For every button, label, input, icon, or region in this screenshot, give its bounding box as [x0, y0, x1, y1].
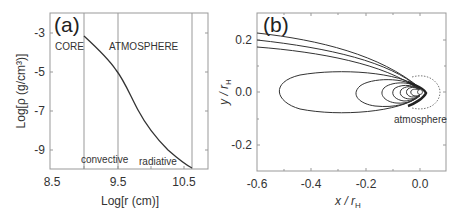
b-x-axis-label-sub: H [355, 201, 361, 210]
a-xtick-label: 8.5 [44, 175, 61, 189]
panel-b-label: (b) [263, 13, 289, 36]
a-xtick-label: 9.5 [110, 175, 127, 189]
panel-b: 0.2 0.0 -0.2 -0.6 -0.4 -0.2 0.0 x / rH y… [217, 13, 447, 210]
a-ytick-label: -3 [34, 26, 45, 40]
a-ytick-label: -9 [34, 143, 45, 157]
b-xtick-label: -0.4 [301, 177, 322, 191]
panel-a-region-lines [84, 13, 192, 169]
a-ytick-label: -5 [34, 65, 45, 79]
b-ytick-label: 0.2 [235, 33, 252, 47]
b-x-axis-label-main: x / r [334, 194, 356, 208]
planet-marker [418, 90, 423, 95]
a-xtick-label: 10.5 [172, 175, 196, 189]
figure: -3 -5 -7 -9 8.5 9.5 10.5 Log[r (cm)] Log… [0, 0, 461, 216]
convective-annotation: convective [81, 154, 129, 165]
a-x-axis-label: Log[r (cm)] [101, 194, 159, 208]
b-x-axis-label: x / rH [334, 194, 361, 210]
a-ytick-label: -7 [34, 104, 45, 118]
open-streamline-middle [257, 40, 419, 88]
b-ytick-label: -0.2 [231, 138, 252, 152]
b-xtick-label: -0.2 [356, 177, 377, 191]
b-y-axis-label-main: y / r [217, 84, 231, 106]
panel-a: -3 -5 -7 -9 8.5 9.5 10.5 Log[r (cm)] Log… [14, 13, 208, 208]
b-xtick-label: -0.6 [247, 177, 268, 191]
streamlines [257, 33, 420, 113]
atmosphere-annotation-b: atmosphere [394, 114, 447, 125]
a-y-axis-label: Log[ρ (g/cm³)] [14, 54, 28, 129]
core-annotation: CORE [55, 41, 84, 52]
b-y-axis-label: y / rH [217, 79, 233, 106]
panel-a-ticks [50, 33, 208, 169]
closed-streamline-1 [279, 72, 420, 113]
b-xtick-label: 0.0 [412, 177, 429, 191]
radiative-annotation: radiative [139, 156, 177, 167]
atmosphere-annotation: ATMOSPHERE [109, 41, 179, 52]
b-y-axis-label-sub: H [224, 79, 233, 85]
panel-a-label: (a) [54, 13, 80, 36]
density-curve [84, 36, 192, 168]
b-ytick-label: 0.0 [235, 85, 252, 99]
